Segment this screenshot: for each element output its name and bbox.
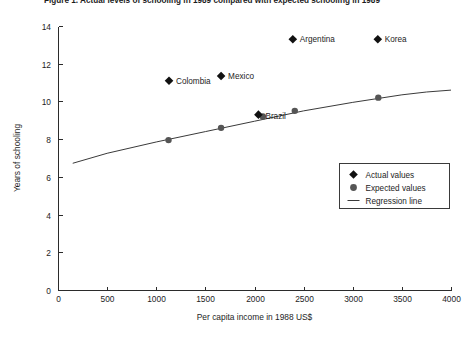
y-axis-tick-label: 6 [46,173,51,183]
y-axis-title: Years of schooling [12,124,22,192]
x-axis-tick-label: 2500 [295,294,314,304]
chart-figure: Figure 1. Actual levels of schooling in … [0,0,469,338]
actual-point-korea [374,35,383,44]
x-axis-tick-label: 4000 [442,294,461,304]
legend-marker-circle-icon [350,184,357,191]
point-label-brazil: Brazil [265,112,286,121]
expected-point-argentina [292,108,298,114]
y-axis-tick-label: 0 [46,286,51,296]
x-axis-tick-label: 3000 [344,294,363,304]
x-axis-title: Per capita income in 1988 US$ [197,312,313,322]
actual-point-argentina [289,35,298,44]
expected-point-mexico [218,125,224,131]
regression-line-path [73,90,451,163]
x-axis-tick-label: 1500 [196,294,215,304]
actual-point-mexico [217,72,226,81]
regression-line [73,90,451,163]
x-axis-tick-label: 0 [56,294,61,304]
x-axis-tick-label: 1000 [147,294,166,304]
point-label-mexico: Mexico [228,72,254,81]
y-axis-tick-label: 12 [42,60,52,70]
x-axis-tick-label: 2000 [246,294,265,304]
y-axis-tick-label: 14 [42,22,52,32]
point-label-colombia: Colombia [176,77,211,86]
point-label-korea: Korea [385,35,407,44]
y-axis-tick-label: 8 [46,135,51,145]
expected-point-korea [375,94,381,100]
expected-point-colombia [165,137,171,143]
x-axis-tick-label: 500 [101,294,115,304]
legend-label-1: Expected values [366,184,426,193]
scatter-plot: 0500100015002000250030003500400002468101… [0,0,469,338]
legend-label-0: Actual values [366,171,415,180]
y-axis-tick-label: 4 [46,211,51,221]
legend-label-2: Regression line [366,197,423,206]
point-label-argentina: Argentina [300,35,335,44]
actual-values-series: ColombiaMexicoBrazilArgentinaKorea [165,35,407,121]
chart-legend: Actual valuesExpected valuesRegression l… [340,164,450,209]
x-axis-tick-label: 3500 [393,294,412,304]
actual-point-colombia [165,76,174,85]
y-axis-tick-label: 10 [42,97,52,107]
y-axis-tick-label: 2 [46,248,51,258]
